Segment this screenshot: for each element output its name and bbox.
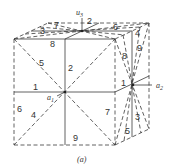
a2-center-point bbox=[132, 84, 135, 87]
figure-caption: (a) bbox=[77, 155, 87, 164]
label-front-4: 4 bbox=[31, 110, 36, 120]
label-right-5: 5 bbox=[125, 126, 130, 136]
label-right-3: 3 bbox=[135, 112, 140, 122]
axis-label-a2: a2 bbox=[156, 81, 163, 91]
label-top-2: 2 bbox=[87, 16, 92, 26]
axis-label-a1: a1 bbox=[47, 93, 54, 103]
label-right-9: 9 bbox=[137, 43, 142, 53]
label-front-7: 7 bbox=[105, 107, 110, 117]
label-front-6: 6 bbox=[17, 104, 22, 114]
top-face bbox=[14, 18, 149, 39]
u3-center-point bbox=[81, 30, 84, 33]
axis-label-u3: u3 bbox=[76, 8, 83, 18]
right-face bbox=[57, 23, 152, 145]
label-top-4: 4 bbox=[135, 28, 140, 38]
label-top-6: 6 bbox=[113, 22, 118, 32]
label-right-1: 1 bbox=[121, 78, 126, 88]
cube-rotation-axes-diagram: u3 a1 a2 2 7 3 6 4 8 5 2 1 6 4 7 9 8 9 1… bbox=[0, 0, 177, 166]
label-right-8: 8 bbox=[122, 51, 127, 61]
label-front-9: 9 bbox=[73, 133, 78, 143]
label-front-2: 2 bbox=[68, 63, 73, 73]
label-top-8: 8 bbox=[50, 39, 55, 49]
cube-diagram-svg: u3 a1 a2 2 7 3 6 4 8 5 2 1 6 4 7 9 8 9 1… bbox=[0, 0, 177, 166]
label-top-7: 7 bbox=[54, 20, 59, 30]
a1-center-point bbox=[64, 91, 67, 94]
label-front-5: 5 bbox=[39, 58, 44, 68]
label-top-3: 3 bbox=[40, 26, 45, 36]
label-front-1: 1 bbox=[33, 82, 38, 92]
